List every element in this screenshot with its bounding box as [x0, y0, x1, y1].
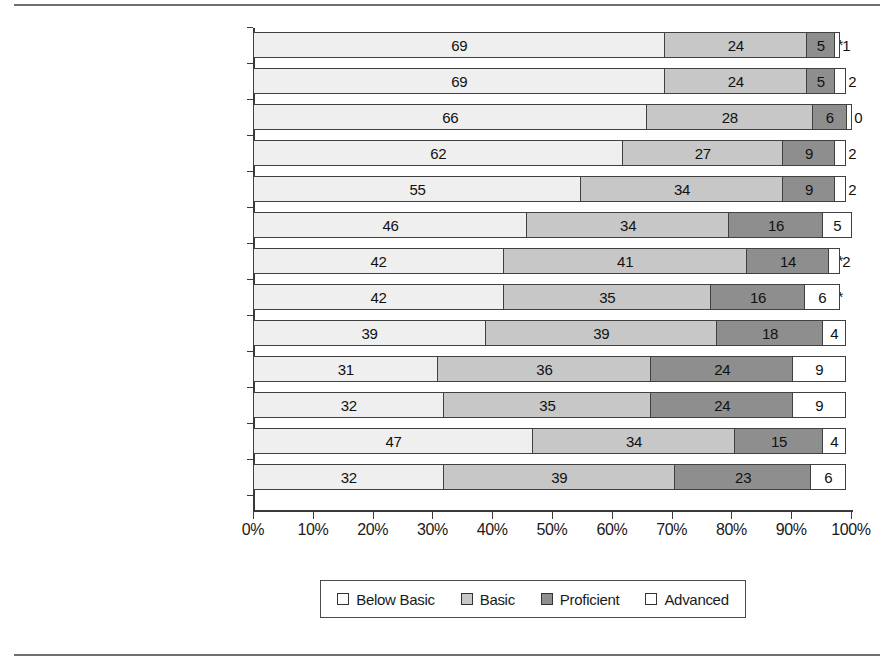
stacked-bar: 4634165: [253, 212, 852, 238]
segment-value: 18: [762, 325, 778, 342]
segment-value: 4: [830, 325, 838, 342]
bar-segment-basic: 35: [443, 392, 652, 418]
segment-value: 2: [848, 73, 856, 90]
segment-value: 1: [842, 37, 850, 54]
legend-label: Proficient: [560, 591, 620, 608]
segment-value: 6: [824, 469, 832, 486]
y-axis-tick: [247, 459, 253, 460]
y-axis-tick: [247, 207, 253, 208]
bar-segment-below-basic: 55: [253, 176, 582, 202]
y-axis-tick: [247, 63, 253, 64]
bar-segment-advanced: 0: [846, 104, 852, 130]
x-axis-tick: [731, 512, 732, 519]
bar-segment-advanced: 2: [834, 140, 846, 166]
chart-row: San Diego (270) *,**3939184: [253, 320, 851, 346]
x-axis-tick: [313, 512, 314, 519]
bar-segment-advanced: 4: [822, 428, 846, 454]
segment-value: 24: [728, 73, 744, 90]
bar-segment-basic: 36: [437, 356, 652, 382]
bar-segment-basic: 34: [532, 428, 735, 454]
legend-item: Below Basic: [337, 591, 434, 608]
chart-row: Atlanta (245) *,**692451: [253, 32, 851, 58]
stacked-bar: 622792: [253, 140, 846, 166]
bar-segment-basic: 34: [526, 212, 729, 238]
bar-segment-basic: 24: [664, 68, 808, 94]
segment-value: 31: [338, 361, 354, 378]
bar-segment-advanced: 6: [804, 284, 840, 310]
chart-row: Houston (267) **4241142: [253, 248, 851, 274]
bar-segment-advanced: 9: [792, 392, 846, 418]
chart-row: District of Columbia (245) *,**692452: [253, 68, 851, 94]
bar-segment-basic: 27: [622, 140, 783, 166]
x-axis-tick-label: 70%: [656, 521, 687, 539]
stacked-bar: 3136249: [253, 356, 846, 382]
chart-row: Cleveland (249) *,**662860: [253, 104, 851, 130]
segment-value: 42: [371, 289, 387, 306]
bar-segment-advanced: 9: [792, 356, 846, 382]
bar-segment-basic: 24: [664, 32, 808, 58]
bar-segment-advanced: 1: [834, 32, 840, 58]
x-axis-tick-label: 90%: [776, 521, 807, 539]
segment-value: 55: [409, 181, 425, 198]
bottom-divider-rule: [14, 654, 880, 656]
x-axis-tick-label: 10%: [297, 521, 328, 539]
x-axis-tick-label: 20%: [357, 521, 388, 539]
chart-legend: Below BasicBasicProficientAdvanced: [320, 580, 746, 618]
legend-swatch-icon: [461, 593, 473, 605]
stacked-bar: 692451: [253, 32, 840, 58]
bar-segment-proficient: 5: [806, 68, 836, 94]
segment-value: 9: [805, 145, 813, 162]
x-axis-tick-label: 80%: [716, 521, 747, 539]
segment-value: 24: [714, 397, 730, 414]
stacked-bar: 3235249: [253, 392, 846, 418]
x-axis-tick-label: 50%: [537, 521, 568, 539]
legend-label: Basic: [480, 591, 515, 608]
bar-segment-basic: 39: [485, 320, 718, 346]
segment-value: 69: [451, 73, 467, 90]
segment-value: 39: [362, 325, 378, 342]
bar-segment-basic: 35: [503, 284, 712, 310]
segment-value: 5: [817, 37, 825, 54]
chart-row: Boston (270) *,**4235166: [253, 284, 851, 310]
segment-value: 34: [674, 181, 690, 198]
segment-value: 24: [728, 37, 744, 54]
segment-value: 41: [617, 253, 633, 270]
x-axis-tick-label: 100%: [831, 521, 870, 539]
segment-value: 32: [341, 469, 357, 486]
bar-segment-basic: 39: [443, 464, 676, 490]
x-axis-tick: [672, 512, 673, 519]
chart-figure: Atlanta (245) *,**692451District of Colu…: [0, 0, 891, 664]
segment-value: 32: [341, 397, 357, 414]
x-axis-tick: [492, 512, 493, 519]
legend-label: Advanced: [664, 591, 728, 608]
bar-segment-advanced: 4: [822, 320, 846, 346]
segment-value: 2: [842, 253, 850, 270]
bar-segment-below-basic: 66: [253, 104, 648, 130]
y-axis-tick: [247, 423, 253, 424]
chart-row: Austin (281) *,**3235249: [253, 392, 851, 418]
segment-value: 5: [833, 217, 841, 234]
legend-item: Proficient: [541, 591, 620, 608]
x-axis-tick: [373, 512, 374, 519]
x-axis-tick: [432, 512, 433, 519]
bar-segment-proficient: 5: [806, 32, 836, 58]
segment-value: 28: [722, 109, 738, 126]
legend-swatch-icon: [337, 593, 349, 605]
legend-label: Below Basic: [356, 591, 434, 608]
segment-value: 69: [451, 37, 467, 54]
y-axis-tick: [247, 315, 253, 316]
bar-segment-basic: 41: [503, 248, 748, 274]
bar-segment-below-basic: 62: [253, 140, 624, 166]
segment-value: 42: [371, 253, 387, 270]
y-axis-tick: [247, 495, 253, 496]
stacked-bar: 3239236: [253, 464, 846, 490]
stacked-bar: 553492: [253, 176, 846, 202]
bar-segment-proficient: 16: [710, 284, 806, 310]
y-axis-tick: [247, 243, 253, 244]
x-axis-tick: [791, 512, 792, 519]
segment-value: 15: [771, 433, 787, 450]
x-axis-tick: [552, 512, 553, 519]
bar-segment-advanced: 2: [834, 176, 846, 202]
y-axis-tick: [247, 135, 253, 136]
plot-area: Atlanta (245) *,**692451District of Colu…: [253, 28, 851, 510]
